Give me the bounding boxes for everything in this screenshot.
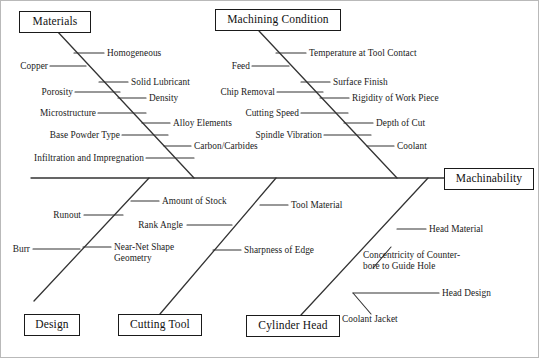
cause-burr: Burr [8, 244, 30, 255]
category-box-design[interactable]: Design [24, 314, 80, 336]
cause-homogeneous: Homogeneous [107, 48, 161, 59]
cause-head-design: Head Design [442, 288, 491, 299]
cause-rigidity-of-work-piece: Rigidity of Work Piece [352, 93, 439, 104]
cause-solid-lubricant: Solid Lubricant [131, 77, 190, 88]
cause-microstructure: Microstructure [23, 108, 96, 119]
cause-cutting-speed: Cutting Speed [235, 108, 299, 119]
cause-alloy-elements: Alloy Elements [173, 118, 232, 129]
cause-porosity: Porosity [26, 87, 73, 98]
cause-near-net-shape-line2: Geometry [114, 253, 152, 263]
cause-density: Density [149, 93, 178, 104]
category-label-cylinder-head: Cylinder Head [258, 320, 327, 332]
cause-concentricity-line1: Concentricity of Counter- [363, 250, 460, 260]
cause-coolant-jacket: Coolant Jacket [342, 314, 398, 325]
cause-coolant: Coolant [397, 141, 427, 152]
category-box-machining-condition[interactable]: Machining Condition [215, 9, 341, 31]
branch-cylinder-head [301, 178, 428, 315]
cause-surface-finish: Surface Finish [333, 77, 388, 88]
bone-coolant-jacket [353, 293, 371, 314]
cause-sharpness-of-edge: Sharpness of Edge [244, 245, 314, 256]
effect-box-machinability[interactable]: Machinability [444, 168, 534, 190]
cause-head-material: Head Material [429, 224, 483, 235]
category-box-materials[interactable]: Materials [19, 11, 91, 33]
cause-infiltration-and-impregnation: Infiltration and Impregnation [19, 153, 144, 164]
cause-amount-of-stock: Amount of Stock [162, 196, 227, 207]
cause-concentricity-line2: bore to Guide Hole [363, 261, 435, 271]
cause-base-powder-type: Base Powder Type [33, 130, 120, 141]
category-label-cutting-tool: Cutting Tool [130, 319, 190, 331]
category-label-design: Design [35, 319, 68, 331]
effect-label-machinability: Machinability [456, 173, 522, 185]
cause-tool-material: Tool Material [291, 200, 342, 211]
category-box-cutting-tool[interactable]: Cutting Tool [118, 314, 202, 336]
category-label-machining-condition: Machining Condition [227, 14, 329, 26]
fishbone-diagram: Materials Machining Condition Machinabil… [0, 0, 539, 358]
cause-rank-angle: Rank Angle [133, 220, 183, 231]
cause-runout: Runout [49, 210, 81, 221]
cause-near-net-shape-geometry: Near-Net ShapeGeometry [114, 242, 174, 263]
category-label-materials: Materials [33, 16, 78, 28]
cause-concentricity-of-counterbore: Concentricity of Counter-bore to Guide H… [363, 250, 460, 271]
cause-near-net-shape-line1: Near-Net Shape [114, 242, 174, 252]
category-box-cylinder-head[interactable]: Cylinder Head [246, 315, 340, 337]
cause-copper: Copper [11, 61, 48, 72]
cause-depth-of-cut: Depth of Cut [376, 118, 425, 129]
cause-temperature-at-tool-contact: Temperature at Tool Contact [309, 48, 417, 59]
cause-carbon-carbides: Carbon/Carbides [194, 141, 258, 152]
branch-design [34, 178, 149, 301]
cause-feed: Feed [223, 61, 250, 72]
cause-spindle-vibration: Spindle Vibration [244, 130, 322, 141]
cause-chip-removal: Chip Removal [210, 87, 275, 98]
